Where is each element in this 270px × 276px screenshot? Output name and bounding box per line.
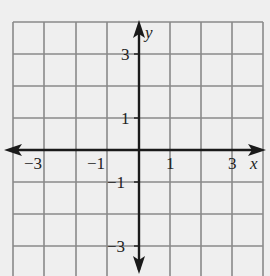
axes [18, 27, 258, 270]
y-axis-label: y [145, 24, 153, 41]
y-tick-label-neg3: −3 [107, 238, 125, 255]
x-tick-label-3: 3 [228, 155, 237, 172]
coordinate-plane: y x −3 −1 1 3 3 1 −1 −3 [0, 0, 270, 276]
x-tick-label-neg1: −1 [87, 155, 105, 172]
y-tick-label-neg1: −1 [107, 174, 125, 191]
x-axis-label: x [250, 155, 258, 172]
x-tick-label-1: 1 [166, 155, 175, 172]
x-tick-label-neg3: −3 [24, 155, 42, 172]
y-tick-label-1: 1 [121, 110, 130, 127]
y-tick-label-3: 3 [121, 46, 130, 63]
grid-svg [0, 0, 270, 276]
